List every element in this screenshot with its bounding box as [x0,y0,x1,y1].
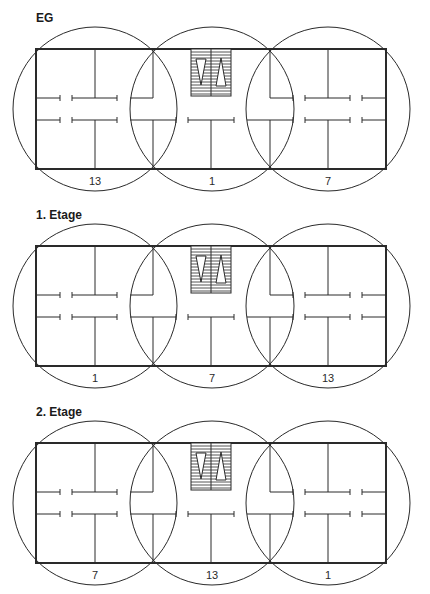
stairwell-icon [191,443,231,490]
wing-label-right: 13 [322,372,334,384]
wing-label-left: 7 [92,569,98,581]
floor-2-etage: 2. Etage [0,394,430,594]
floor-plan: 7 13 1 [0,394,430,594]
wing-label-center: 1 [209,175,215,187]
wing-label-left: 13 [89,175,101,187]
wing-label-center: 13 [206,569,218,581]
floor-plan: 1 7 13 [0,197,430,394]
floor-plan: 13 1 7 [0,0,430,197]
floor-eg: EG [0,0,430,197]
wing-label-center: 7 [209,372,215,384]
wing-label-right: 7 [325,175,331,187]
floor-1-etage: 1. Etage [0,197,430,394]
wing-label-left: 1 [92,372,98,384]
stairwell-icon [191,246,231,293]
wing-label-right: 1 [325,569,331,581]
stairwell-icon [191,49,231,96]
